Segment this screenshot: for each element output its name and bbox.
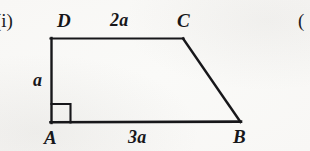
- side-ab-line: [51, 122, 242, 123]
- next-figure-enumeration-label: (: [298, 11, 304, 30]
- vertex-label-a: A: [44, 128, 57, 147]
- side-length-label-ad: a: [33, 71, 42, 89]
- side-length-label-dc: 2a: [110, 11, 128, 29]
- figure-enumeration-label: (i): [0, 11, 13, 30]
- figure-page: (i) ( D C A B 2a 3a a: [0, 0, 310, 151]
- vertex-label-c: C: [177, 11, 190, 30]
- vertex-label-b: B: [233, 127, 246, 146]
- side-length-label-ab: 3a: [128, 128, 146, 146]
- right-angle-square-icon: [52, 104, 71, 123]
- side-cb-line: [183, 39, 241, 123]
- vertex-label-d: D: [57, 11, 71, 30]
